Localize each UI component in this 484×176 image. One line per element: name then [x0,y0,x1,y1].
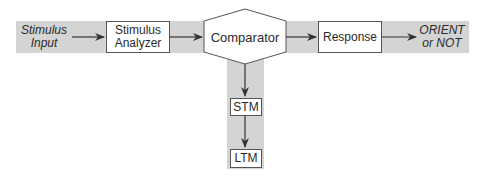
response-node: Response [318,21,382,53]
orient-output-label: ORIENT or NOT [414,24,470,50]
stm-label: STM [233,101,258,114]
comparator-label: Comparator [204,21,286,53]
response-label: Response [323,31,377,44]
ltm-node: LTM [230,149,262,168]
stm-node: STM [230,98,262,116]
ltm-label: LTM [234,152,257,165]
orient-line2: or NOT [414,37,470,50]
